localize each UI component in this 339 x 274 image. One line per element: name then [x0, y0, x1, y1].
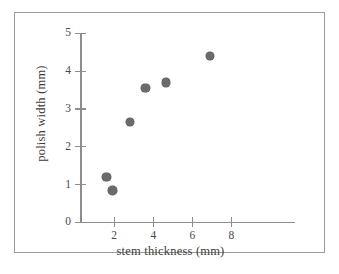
data-point — [108, 186, 117, 195]
x-tick-mark — [231, 217, 232, 227]
y-tick-label: 5 — [53, 27, 71, 39]
y-tick-mark — [75, 184, 86, 185]
figure-frame: 012345 2468 polish width (mm) stem thick… — [14, 12, 325, 253]
y-axis-title: polish width (mm) — [34, 44, 49, 184]
x-axis-title: stem thickness (mm) — [15, 244, 326, 259]
x-tick-label: 8 — [221, 230, 241, 242]
x-tick-label: 4 — [143, 230, 163, 242]
y-tick-label: 4 — [53, 65, 71, 77]
x-tick-mark — [153, 217, 154, 227]
y-tick-mark — [75, 222, 86, 223]
y-tick-label: 3 — [53, 103, 71, 115]
data-point — [206, 52, 215, 61]
y-tick-label: 2 — [53, 141, 71, 153]
x-tick-label: 2 — [104, 230, 124, 242]
y-tick-mark — [75, 33, 86, 34]
data-point — [141, 84, 150, 93]
data-point — [102, 173, 111, 182]
x-tick-mark — [192, 217, 193, 227]
x-tick-label: 6 — [182, 230, 202, 242]
x-axis-line — [80, 222, 295, 224]
y-tick-label: 1 — [53, 179, 71, 191]
x-tick-mark — [114, 217, 115, 227]
scatter-plot: 012345 2468 polish width (mm) stem thick… — [15, 13, 326, 254]
y-tick-mark — [75, 146, 86, 147]
data-point — [162, 78, 171, 87]
y-tick-label: 0 — [53, 216, 71, 228]
y-axis-line — [80, 33, 82, 223]
y-tick-mark — [75, 108, 86, 109]
y-tick-mark — [75, 71, 86, 72]
data-point — [126, 118, 135, 127]
